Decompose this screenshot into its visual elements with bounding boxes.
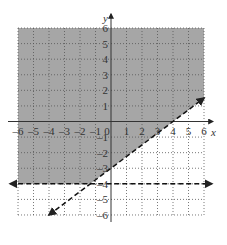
x-tick: –3 [58,125,71,137]
y-tick: 5 [103,38,109,50]
y-axis-label: y [102,12,108,24]
y-tick: 4 [103,53,109,65]
x-tick: –4 [43,125,56,137]
x-tick: 2 [139,125,145,137]
x-tick: –5 [27,125,40,137]
x-tick: 4 [170,125,176,137]
y-tick: 3 [103,69,109,81]
inequality-graph: –6–5–4–3–2–10123456 654321–1–2–3–4–5–6 x… [0,0,227,245]
x-tick: 6 [201,125,207,137]
y-tick: –2 [96,147,108,159]
y-tick: –3 [96,162,109,174]
y-tick: –6 [96,209,109,221]
y-tick: –1 [96,131,108,143]
y-tick: –4 [96,178,109,190]
y-tick: 2 [103,84,109,96]
x-tick: –2 [74,125,86,137]
x-tick: –6 [12,125,25,137]
x-tick: 3 [155,125,161,137]
x-axis-label: x [210,126,216,138]
y-tick: 1 [103,100,109,112]
y-tick: –5 [96,193,109,205]
x-tick: 5 [186,125,192,137]
x-tick: 1 [124,125,130,137]
